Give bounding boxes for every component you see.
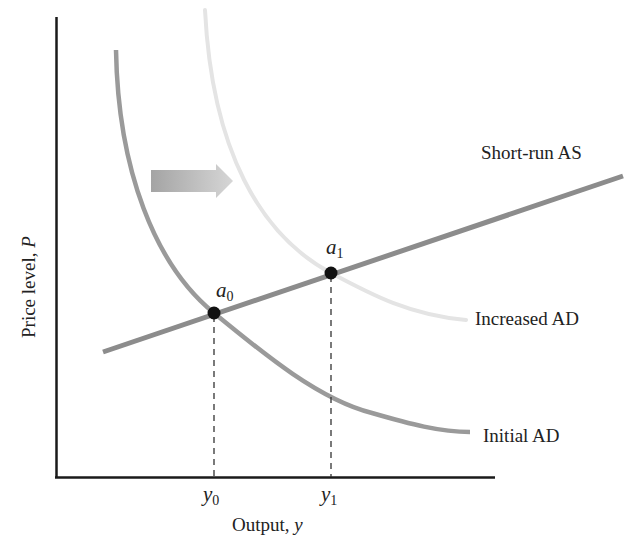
point-a1-sub: 1 <box>337 246 344 261</box>
point-label-a0: a0 <box>216 278 234 305</box>
initial-ad-label: Initial AD <box>483 425 560 447</box>
equilibrium-point-a1 <box>325 267 338 280</box>
x-axis-title: Output, y <box>232 514 303 536</box>
tick-y1-base: y <box>321 482 330 506</box>
x-axis-variable: y <box>294 514 302 535</box>
right-arrow-icon <box>151 164 233 198</box>
ad-as-diagram <box>0 0 635 553</box>
short-run-as-label: Short-run AS <box>481 142 582 164</box>
tick-label-y0: y0 <box>203 482 219 509</box>
point-label-a1: a1 <box>326 235 344 262</box>
point-a0-sub: 0 <box>227 289 234 304</box>
x-axis-title-text: Output, <box>232 514 294 535</box>
point-a1-base: a <box>326 235 337 259</box>
initial-ad-curve <box>116 50 470 432</box>
tick-y0-base: y <box>203 482 212 506</box>
y-axis-variable: P <box>18 236 39 248</box>
equilibrium-point-a0 <box>208 307 221 320</box>
tick-y0-sub: 0 <box>212 493 219 508</box>
tick-y1-sub: 1 <box>330 493 337 508</box>
y-axis-title: Price level, P <box>18 236 40 338</box>
increased-ad-label: Increased AD <box>475 308 579 330</box>
point-a0-base: a <box>216 278 227 302</box>
y-axis-title-text: Price level, <box>18 248 39 338</box>
tick-label-y1: y1 <box>321 482 337 509</box>
